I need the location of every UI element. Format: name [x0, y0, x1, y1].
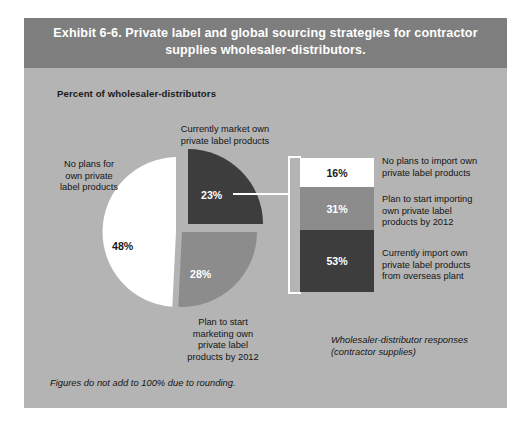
pie-slice-currently-market: [188, 149, 263, 224]
pie-label-no-plans-line1: No plans for: [39, 159, 139, 171]
bar-label-plan-to-import-line1: Plan to start importing: [382, 194, 507, 206]
pie-value-currently-market: 23%: [201, 189, 222, 201]
pie-label-plan-to-market-line3: private label: [163, 340, 283, 352]
leader-bracket-bottom: [288, 292, 301, 294]
pie-label-currently-market: Currently market own private label produ…: [160, 124, 290, 147]
bar-label-currently-import-line2: private label products: [382, 260, 507, 272]
bar-segment-no-plans-import: 16%: [300, 158, 374, 187]
bar-label-no-plans-import-line1: No plans to import own: [382, 156, 507, 168]
bar-value-no-plans-import: 16%: [326, 167, 347, 179]
source-note-line1: Wholesaler-distributor responses: [331, 334, 507, 346]
leader-bracket-vertical: [288, 156, 290, 294]
bar-label-no-plans-import-line2: private label products: [382, 168, 507, 180]
bar-label-no-plans-import: No plans to import own private label pro…: [382, 156, 507, 179]
pie-label-currently-market-line2: private label products: [160, 136, 290, 148]
pie-label-no-plans-line2: own private: [39, 171, 139, 183]
bar-label-currently-import-line3: from overseas plant: [382, 271, 507, 283]
rounding-footnote: Figures do not add to 100% due to roundi…: [50, 377, 236, 389]
bar-value-currently-import: 53%: [326, 255, 347, 267]
bar-label-plan-to-import-line2: own private label: [382, 206, 507, 218]
exhibit-panel: Exhibit 6-6. Private label and global so…: [24, 18, 507, 408]
pie-label-plan-to-market-line1: Plan to start: [163, 317, 283, 329]
pie-value-no-plans: 48%: [112, 240, 133, 252]
bar-label-plan-to-import: Plan to start importing own private labe…: [382, 194, 507, 229]
stacked-bar-chart: 16% 31% 53%: [300, 158, 374, 292]
bar-segment-plan-to-import: 31%: [300, 187, 374, 230]
leader-line-horizontal: [233, 193, 289, 195]
pie-value-plan-to-market: 28%: [190, 268, 211, 280]
bar-label-currently-import: Currently import own private label produ…: [382, 248, 507, 283]
pie-label-no-plans-line3: label products: [39, 182, 139, 194]
source-note-line2: (contractor supplies): [331, 346, 507, 358]
bar-segment-currently-import: 53%: [300, 230, 374, 292]
pie-label-plan-to-market: Plan to start marketing own private labe…: [163, 317, 283, 363]
pie-label-currently-market-line1: Currently market own: [160, 124, 290, 136]
pie-label-plan-to-market-line2: marketing own: [163, 329, 283, 341]
bar-label-plan-to-import-line3: products by 2012: [382, 217, 507, 229]
bar-label-currently-import-line1: Currently import own: [382, 248, 507, 260]
pie-label-plan-to-market-line4: products by 2012: [163, 352, 283, 364]
pie-label-no-plans: No plans for own private label products: [39, 159, 139, 194]
source-note: Wholesaler-distributor responses (contra…: [331, 334, 507, 358]
bar-value-plan-to-import: 31%: [326, 203, 347, 215]
